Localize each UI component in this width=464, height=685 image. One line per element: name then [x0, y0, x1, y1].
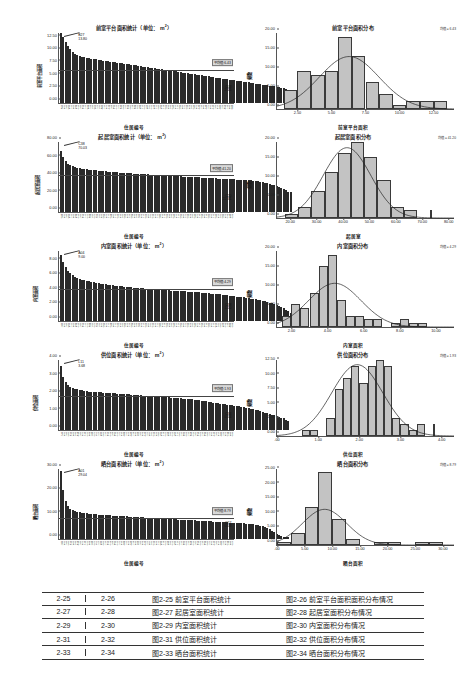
- y-tick: 10.00: [265, 370, 277, 375]
- x-axis-label: 起居室: [246, 233, 460, 239]
- y-tick: 0.00: [49, 205, 59, 210]
- normal-curve: [277, 33, 454, 109]
- index-row: 2-31 2-32 图2-31 供位面积统计 图2-32 供位面积分布情况: [42, 633, 424, 647]
- figure-index-table: 2-25 2-26 图2-25 前室平台面积统计 图2-26 前室平台面积面积分…: [42, 592, 424, 660]
- index-caption-left: 图2-29 内室面积统计: [130, 620, 280, 630]
- x-tick: 1.00: [314, 438, 321, 442]
- page-root: 前室平台面积统计（单位： m2） 前室平台面积 0.002.505.007.50…: [0, 0, 464, 685]
- y-tick: 0.00: [49, 532, 59, 537]
- max-point-annotation: A049.00: [78, 252, 85, 260]
- y-tick: 30.00: [47, 462, 59, 467]
- plot-area: 0.005.0010.0015.0020.002.004.006.008.001…: [276, 251, 454, 328]
- y-tick: 0.00: [267, 102, 277, 107]
- chart-row: 晒台面积统计（单位： m2） 晒台面积 0.0010.0020.0030.00 …: [0, 458, 464, 566]
- index-number-right: 2-30: [86, 622, 130, 629]
- y-tick: 20.00: [47, 187, 59, 192]
- chart-title: 晒台面积分布: [246, 460, 460, 467]
- x-axis-label: 住居编号: [28, 233, 240, 239]
- bar-series: [59, 142, 234, 212]
- y-tick: 5.00: [267, 523, 277, 528]
- x-tick: 40.00: [338, 220, 348, 224]
- x-tick: 3.00: [397, 438, 404, 442]
- x-tick: 2.00: [288, 329, 295, 333]
- index-caption-left: 图2-31 供位面积统计: [130, 634, 280, 644]
- x-axis-label: 住居编号: [28, 342, 240, 348]
- category-axis: A01A09B31A06C09B14A12B05L06B18C16A03B22L…: [59, 539, 234, 561]
- x-tick: 2.00: [356, 438, 363, 442]
- min-point-annotation: C340.54: [225, 413, 232, 421]
- y-axis-label: 频数: [246, 399, 252, 407]
- y-tick: 0.00: [49, 423, 59, 428]
- bar-series: [59, 33, 234, 103]
- y-tick: 2.50: [267, 414, 277, 419]
- mean-stat-note: 均值 = 41.20: [438, 135, 456, 140]
- y-tick: 7.50: [49, 57, 59, 62]
- min-point-annotation: C032.15: [225, 86, 232, 94]
- x-tick: 4.00: [324, 329, 331, 333]
- x-axis-label: 晒台面积: [246, 560, 460, 566]
- y-tick: 0.00: [267, 211, 277, 216]
- x-tick: 5.00: [301, 547, 308, 551]
- max-point-annotation: C3870.03: [78, 143, 87, 151]
- y-tick: 2.00: [49, 299, 59, 304]
- y-tick: 6.00: [49, 270, 59, 275]
- x-tick: 20.00: [285, 220, 295, 224]
- x-tick: 15.00: [355, 547, 365, 551]
- x-tick: 4.00: [438, 438, 445, 442]
- y-axis-label: 频数: [246, 181, 252, 189]
- plot-area: 0.005.0010.0015.0020.0025.00.005.0010.00…: [276, 469, 454, 546]
- x-axis-label: 住居编号: [28, 124, 240, 130]
- mean-value-badge: 平均值:8.79: [212, 507, 233, 515]
- y-axis-label: 内室面积: [32, 286, 38, 302]
- category-label: C03: [232, 103, 233, 125]
- plot-area: 0.002.505.007.5010.0012.50.001.002.003.0…: [276, 360, 454, 437]
- bar-series: [59, 251, 234, 321]
- y-tick: 12.50: [265, 355, 277, 360]
- mean-reference-line: [59, 70, 234, 71]
- chart-title: 供位面积分布: [246, 351, 460, 358]
- index-number-left: 2-33: [42, 649, 86, 656]
- min-point-annotation: C2022.31: [223, 195, 232, 203]
- y-tick: 15.00: [265, 494, 277, 499]
- chart-row: 供位面积统计（单位： m2） 供位面积 0.001.002.003.004.00…: [0, 349, 464, 457]
- x-tick: 20.00: [383, 547, 393, 551]
- index-caption-right: 图2-30 内室面积分布情况: [280, 620, 365, 630]
- fig-2-27-panel: 起居室面积统计（单位： m2） 起居室面积 0.0020.0040.0060.0…: [28, 131, 240, 239]
- category-axis: A04A09B31A06C09B14A12B05L06B18C16A03B22L…: [59, 321, 234, 343]
- index-row: 2-27 2-28 图2-27 起居室面积统计 图2-28 起居室面积分布情况: [42, 606, 424, 620]
- y-tick: 10.00: [47, 508, 59, 513]
- x-tick: 10.00: [328, 547, 338, 551]
- index-number-left: 2-29: [42, 622, 86, 629]
- chart-title: 前室平台面积统计（单位： m2）: [28, 24, 240, 31]
- fig-2-32-panel: 供位面积分布 频数 均值 = 1.93 0.002.505.007.5010.0…: [246, 349, 460, 457]
- y-tick: 1.00: [49, 405, 59, 410]
- y-axis-label: 频数: [246, 72, 252, 80]
- x-axis-label: 住居编号: [28, 451, 240, 457]
- x-tick: .00: [274, 438, 279, 442]
- category-axis: L11A09B31A06C09B14A12B05L06B18C16A03B22L…: [59, 430, 234, 452]
- y-tick: 60.00: [47, 152, 59, 157]
- index-row: 2-33 2-34 图2-33 晒台面积统计 图2-34 晒台面积分布情况: [42, 646, 424, 660]
- category-axis: C38A09B31A06C09B14A12B05L06B18C16A03B22L…: [59, 212, 234, 234]
- normal-curve: [277, 251, 454, 327]
- x-tick: 10.00: [431, 329, 441, 333]
- x-axis-label: 住居编号: [28, 560, 240, 566]
- mean-stat-note: 均值 = 6.43: [440, 26, 456, 31]
- y-axis-label: 供位面积: [32, 395, 38, 411]
- x-tick: 10.00: [395, 111, 405, 115]
- index-number-left: 2-31: [42, 636, 86, 643]
- y-tick: 20.00: [265, 135, 277, 140]
- y-tick: 15.00: [265, 263, 277, 268]
- x-tick: 30.00: [438, 547, 448, 551]
- plot-area: 0.002.505.007.5010.0012.50 平均值:6.43 B271…: [58, 33, 234, 104]
- x-tick: 50.00: [365, 220, 375, 224]
- max-point-annotation: A0129.04: [78, 470, 87, 478]
- chart-row: 起居室面积统计（单位： m2） 起居室面积 0.0020.0040.0060.0…: [0, 131, 464, 239]
- y-tick: 20.00: [265, 244, 277, 249]
- category-axis: B27A09B31A06C09B14A12B05L06B18C16A03B22L…: [59, 103, 234, 125]
- x-tick: 12.50: [429, 111, 439, 115]
- y-tick: 80.00: [47, 135, 59, 140]
- y-axis-label: 晒台面积: [32, 504, 38, 520]
- fig-2-34-panel: 晒台面积分布 频数 均值 = 8.79 0.005.0010.0015.0020…: [246, 458, 460, 566]
- y-axis-label: 频数: [246, 508, 252, 516]
